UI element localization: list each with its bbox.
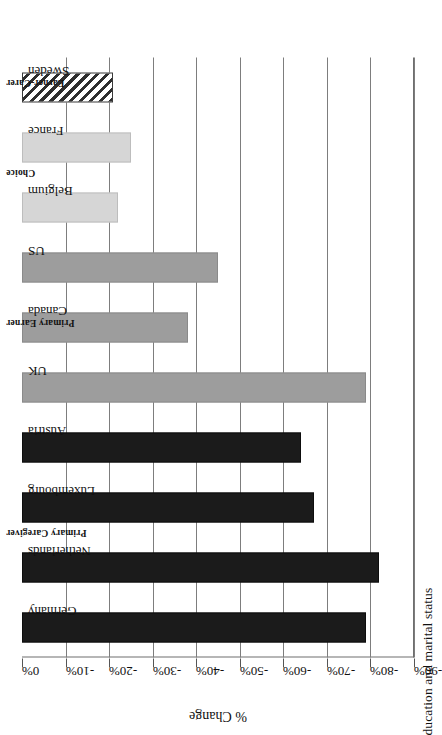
axis-title: % Change [189, 707, 247, 723]
axis-tick-label: -60% [283, 663, 311, 679]
figure-caption: ducation and marital status [420, 587, 436, 735]
bar-us [22, 252, 218, 282]
axis-tick-label: -90% [414, 663, 442, 679]
group-label: Primary Caregiver [6, 527, 87, 537]
axis-tick-label: -10% [66, 663, 94, 679]
axis-tick-label: -30% [153, 663, 181, 679]
category-label: UK [28, 362, 47, 378]
gridline [414, 57, 415, 657]
category-label: France [28, 122, 63, 138]
category-label: Netherlands [28, 542, 91, 558]
axis-tick-label: -50% [240, 663, 268, 679]
axis-tick-label: -20% [109, 663, 137, 679]
category-label: US [28, 242, 45, 258]
group-label: Primary Earner [6, 317, 74, 327]
axis-tick-label: -40% [196, 663, 224, 679]
category-label: Sweden [28, 62, 69, 78]
axis-tick-label: -70% [327, 663, 355, 679]
axis-tick-label: -80% [370, 663, 398, 679]
bar-uk [22, 372, 366, 402]
category-label: Belgium [28, 182, 73, 198]
category-label: Austria [28, 422, 66, 438]
plot-area: 0%-10%-20%-30%-40%-50%-60%-70%-80%-90% G… [22, 57, 414, 657]
group-label: Choice [6, 167, 35, 177]
category-label: Canada [28, 302, 67, 318]
category-label: Luxembourg [28, 482, 95, 498]
group-label: Earner-Carer [6, 77, 64, 87]
value-axis-line [22, 656, 414, 657]
category-label: Germany [28, 602, 76, 618]
axis-tick-label: 0% [22, 663, 39, 679]
